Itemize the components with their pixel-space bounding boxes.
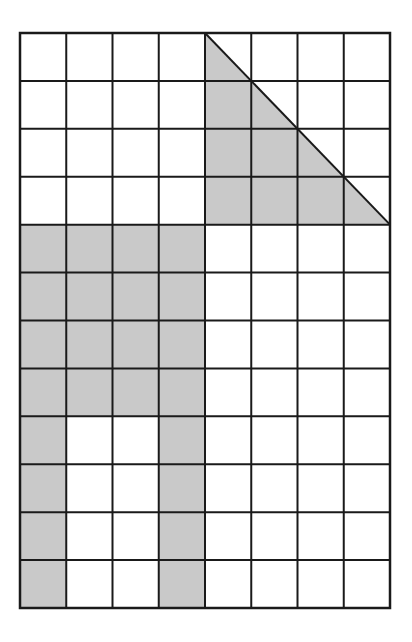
shaded-cell	[20, 512, 66, 560]
shaded-cell	[113, 225, 159, 273]
shaded-cell	[66, 321, 112, 369]
shaded-cell	[20, 225, 66, 273]
shaded-cell	[20, 321, 66, 369]
shaded-cell	[159, 273, 205, 321]
shaded-cell	[113, 273, 159, 321]
shaded-cell	[159, 512, 205, 560]
shaded-cell	[113, 368, 159, 416]
shaded-cell	[159, 560, 205, 608]
shaded-cell	[159, 321, 205, 369]
shaded-cell	[113, 321, 159, 369]
shaded-cell	[66, 273, 112, 321]
shaded-cell	[20, 464, 66, 512]
shaded-cell	[20, 560, 66, 608]
grid-lines	[20, 33, 390, 608]
shaded-cell	[159, 225, 205, 273]
grid-figure	[0, 0, 412, 642]
shaded-cell	[159, 368, 205, 416]
shaded-cell	[20, 273, 66, 321]
shaded-cell	[159, 416, 205, 464]
shaded-cell	[20, 368, 66, 416]
shaded-cell	[20, 416, 66, 464]
shaded-cell	[66, 225, 112, 273]
shaded-cell	[66, 368, 112, 416]
shaded-cell	[159, 464, 205, 512]
